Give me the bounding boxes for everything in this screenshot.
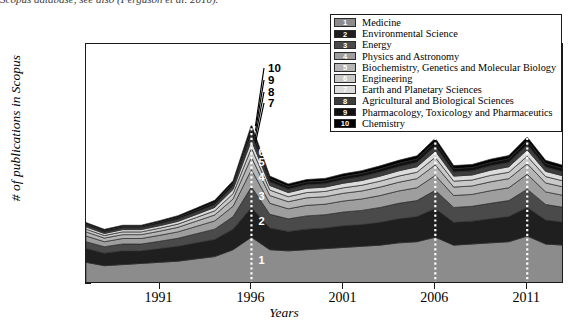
legend-swatch-number-2: 2 bbox=[335, 30, 355, 40]
y-axis-title: # of publications in Scopus bbox=[8, 28, 24, 228]
x-tick-label-1991: 1991 bbox=[129, 290, 189, 305]
callout-number-9: 9 bbox=[268, 74, 274, 86]
x-axis-title: Years bbox=[0, 305, 568, 321]
legend-item-2[interactable]: 2Environmental Science bbox=[334, 28, 558, 39]
legend-item-10[interactable]: 10Chemistry bbox=[334, 118, 558, 129]
legend-swatch-number-4: 4 bbox=[335, 52, 355, 62]
layer-number-2: 2 bbox=[258, 216, 264, 227]
x-tick-mark bbox=[159, 283, 160, 289]
legend-swatch-5: 5 bbox=[334, 63, 356, 72]
legend-swatch-number-3: 3 bbox=[335, 41, 355, 51]
x-tick-mark bbox=[250, 283, 251, 289]
legend-label-10: Chemistry bbox=[362, 118, 405, 129]
legend-item-7[interactable]: 7Earth and Planetary Sciences bbox=[334, 84, 558, 95]
legend-swatch-10: 10 bbox=[334, 119, 356, 128]
legend-swatch-1: 1 bbox=[334, 18, 356, 27]
callout-number-8: 8 bbox=[268, 86, 274, 98]
chart-figure: Scopus database, see also (Ferguson et a… bbox=[0, 0, 568, 323]
x-tick-mark bbox=[342, 283, 343, 289]
legend-label-2: Environmental Science bbox=[362, 28, 458, 39]
legend-label-7: Earth and Planetary Sciences bbox=[362, 84, 482, 95]
legend-swatch-number-7: 7 bbox=[335, 85, 355, 95]
legend: 1Medicine2Environmental Science3Energy4P… bbox=[330, 14, 562, 132]
figure-caption: Scopus database, see also (Ferguson et a… bbox=[0, 0, 300, 11]
legend-label-1: Medicine bbox=[362, 17, 401, 28]
layer-number-5: 5 bbox=[258, 157, 264, 168]
legend-item-5[interactable]: 5Biochemistry, Genetics and Molecular Bi… bbox=[334, 62, 558, 73]
legend-label-6: Engineering bbox=[362, 73, 412, 84]
legend-swatch-4: 4 bbox=[334, 52, 356, 61]
legend-swatch-3: 3 bbox=[334, 41, 356, 50]
x-tick-label-1996: 1996 bbox=[220, 290, 280, 305]
legend-swatch-6: 6 bbox=[334, 74, 356, 83]
x-tick-label-2011: 2011 bbox=[496, 290, 556, 305]
legend-label-8: Agricultural and Biological Sciences bbox=[362, 95, 514, 106]
layer-number-3: 3 bbox=[258, 191, 264, 202]
legend-item-8[interactable]: 8Agricultural and Biological Sciences bbox=[334, 95, 558, 106]
legend-label-4: Physics and Astronomy bbox=[362, 51, 459, 62]
legend-item-3[interactable]: 3Energy bbox=[334, 39, 558, 50]
callout-number-10: 10 bbox=[268, 62, 281, 74]
layer-number-1: 1 bbox=[258, 255, 264, 266]
legend-swatch-9: 9 bbox=[334, 108, 356, 117]
legend-swatch-number-1: 1 bbox=[335, 18, 355, 28]
layer-number-4: 4 bbox=[258, 172, 264, 183]
legend-swatch-number-8: 8 bbox=[335, 97, 355, 107]
legend-swatch-7: 7 bbox=[334, 85, 356, 94]
legend-swatch-8: 8 bbox=[334, 97, 356, 106]
legend-label-3: Energy bbox=[362, 39, 392, 50]
legend-item-6[interactable]: 6Engineering bbox=[334, 73, 558, 84]
x-tick-label-2001: 2001 bbox=[312, 290, 372, 305]
x-tick-mark bbox=[526, 283, 527, 289]
legend-swatch-number-9: 9 bbox=[335, 108, 355, 118]
callout-number-7: 7 bbox=[268, 97, 274, 109]
legend-swatch-2: 2 bbox=[334, 30, 356, 39]
legend-swatch-number-6: 6 bbox=[335, 74, 355, 84]
x-tick-mark bbox=[434, 283, 435, 289]
layer-number-6: 6 bbox=[258, 147, 264, 158]
y-tick-mark bbox=[85, 283, 91, 284]
legend-item-4[interactable]: 4Physics and Astronomy bbox=[334, 51, 558, 62]
legend-label-5: Biochemistry, Genetics and Molecular Bio… bbox=[362, 62, 556, 73]
legend-swatch-number-10: 10 bbox=[335, 119, 355, 129]
x-tick-label-2006: 2006 bbox=[404, 290, 464, 305]
legend-label-9: Pharmacology, Toxicology and Pharmaceuti… bbox=[362, 107, 553, 118]
legend-swatch-number-5: 5 bbox=[335, 63, 355, 73]
legend-item-9[interactable]: 9Pharmacology, Toxicology and Pharmaceut… bbox=[334, 107, 558, 118]
legend-item-1[interactable]: 1Medicine bbox=[334, 17, 558, 28]
